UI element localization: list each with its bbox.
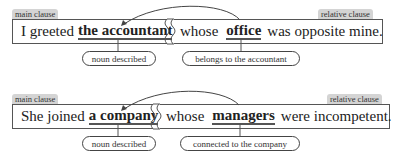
connectors — [0, 85, 397, 164]
clause-break-icon — [151, 104, 155, 129]
connectors — [0, 0, 397, 82]
reference-arrow — [124, 91, 239, 109]
label-possession: belongs to the accountant — [182, 51, 300, 66]
label-noun-described: noun described — [82, 136, 156, 151]
label-noun-described: noun described — [82, 51, 156, 66]
clause-break-icon — [165, 19, 169, 44]
label-connection: connected to the company — [180, 136, 300, 151]
diagram-2: main clause relative clause She joined a… — [0, 85, 397, 164]
diagram-1: main clause relative clause I greeted th… — [0, 0, 397, 82]
reference-arrow — [124, 6, 240, 24]
